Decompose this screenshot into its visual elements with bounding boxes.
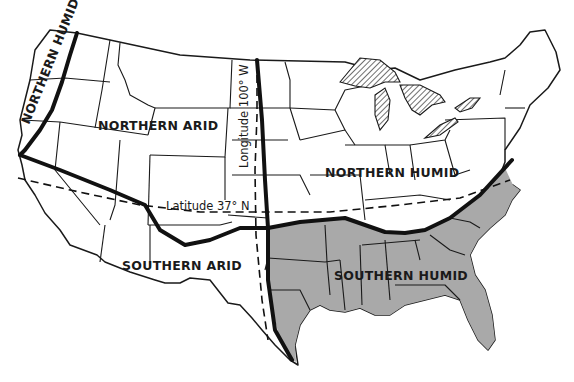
label-longitude-100w: Longitude 100° W <box>237 64 251 168</box>
label-southern-humid: SOUTHERN HUMID <box>334 268 468 283</box>
label-northern-humid-east: NORTHERN HUMID <box>325 165 459 180</box>
label-latitude-37n: Latitude 37° N <box>166 199 250 213</box>
label-northern-arid: NORTHERN ARID <box>98 118 218 133</box>
label-southern-arid: SOUTHERN ARID <box>122 258 242 273</box>
us-climate-regions-map: NORTHERN HUMID NORTHERN ARID NORTHERN HU… <box>0 0 574 382</box>
